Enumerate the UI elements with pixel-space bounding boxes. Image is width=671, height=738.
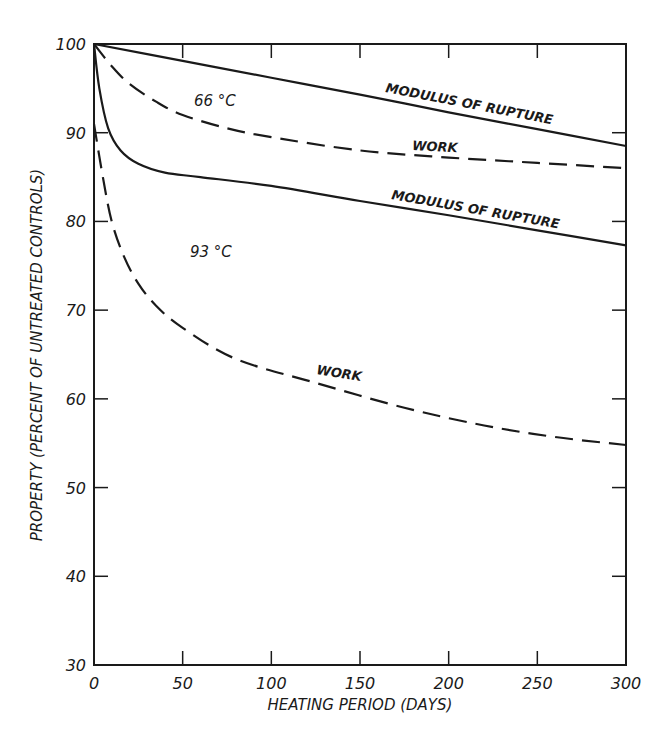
annotation-66c: 66 °C (194, 92, 236, 110)
x-tick-label: 100 (256, 674, 287, 693)
y-axis-label: PROPERTY (PERCENT OF UNTREATED CONTROLS) (28, 169, 46, 541)
series-line (94, 44, 626, 168)
x-tick-label: 150 (345, 674, 376, 693)
y-tick-label: 80 (66, 212, 86, 231)
x-tick-label: 250 (522, 674, 553, 693)
label-work-66: WORK (412, 138, 459, 155)
x-tick-label: 0 (89, 674, 99, 693)
y-tick-label: 90 (66, 124, 86, 143)
x-tick-label: 300 (611, 674, 642, 693)
y-tick-label: 30 (66, 656, 86, 675)
series-line (94, 124, 626, 445)
x-tick-label: 200 (433, 674, 464, 693)
x-axis-ticks: 050100150200250300 (89, 44, 641, 693)
annotation-93c: 93 °C (190, 243, 232, 261)
plot-frame (94, 44, 626, 665)
chart: 050100150200250300 30405060708090100 HEA… (0, 0, 671, 738)
y-axis-ticks: 30405060708090100 (55, 35, 626, 675)
series-line (94, 44, 626, 146)
x-tick-label: 50 (172, 674, 192, 693)
label-work-93: WORK (316, 362, 364, 384)
series-lines (94, 44, 626, 445)
y-tick-label: 50 (66, 479, 86, 498)
y-tick-label: 40 (66, 567, 86, 586)
y-tick-label: 100 (55, 35, 86, 54)
y-tick-label: 70 (66, 301, 86, 320)
x-axis-label: HEATING PERIOD (DAYS) (268, 696, 453, 714)
y-tick-label: 60 (66, 390, 86, 409)
